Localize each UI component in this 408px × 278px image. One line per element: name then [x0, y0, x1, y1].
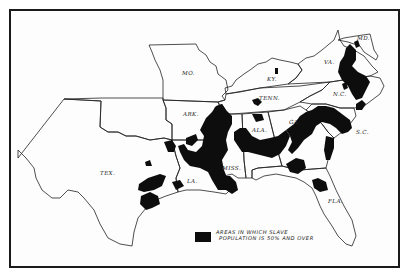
label-fla: FLA.	[327, 198, 343, 204]
area-texas-northeast	[145, 160, 152, 166]
area-georgia-sc-belt	[286, 106, 352, 154]
area-red-river	[164, 140, 176, 152]
area-maryland-south	[354, 40, 360, 48]
area-georgia-coast	[324, 136, 334, 160]
label-la: LA.	[186, 178, 198, 184]
shaded-areas	[138, 40, 370, 210]
label-ala: ALA.	[251, 127, 267, 133]
label-ky: KY.	[266, 76, 277, 82]
label-tex: TEX.	[100, 170, 115, 176]
area-texas-coast	[140, 192, 160, 210]
legend-swatch	[195, 232, 211, 242]
area-west-louisiana	[172, 180, 184, 190]
label-va: VA.	[324, 59, 335, 65]
area-arkansas-delta	[186, 134, 198, 146]
area-north-alabama	[252, 114, 264, 122]
label-mo: MO.	[181, 70, 195, 76]
legend-line-2: POPULATION IS 50% AND OVER	[216, 235, 314, 241]
label-md: MD.	[356, 35, 370, 41]
state-kentucky	[225, 58, 302, 94]
label-sc: S.C.	[356, 129, 369, 135]
area-nc-coast	[356, 100, 366, 110]
label-tenn: TENN.	[259, 95, 280, 101]
area-georgia-southwest	[286, 158, 306, 174]
label-ark: ARK.	[182, 111, 199, 117]
territory-oklahoma	[64, 98, 172, 140]
label-nc: N.C.	[332, 91, 347, 97]
area-texas-brazos	[138, 174, 166, 192]
area-kentucky-bluegrass	[275, 68, 278, 74]
legend: AREAS IN WHICH SLAVE POPULATION IS 50% A…	[216, 229, 314, 241]
state-texas	[18, 99, 180, 246]
area-lower-louisiana	[220, 176, 238, 194]
label-miss: MISS.	[221, 165, 241, 171]
area-florida-middle	[312, 178, 328, 192]
label-ga: GA.	[289, 119, 301, 125]
